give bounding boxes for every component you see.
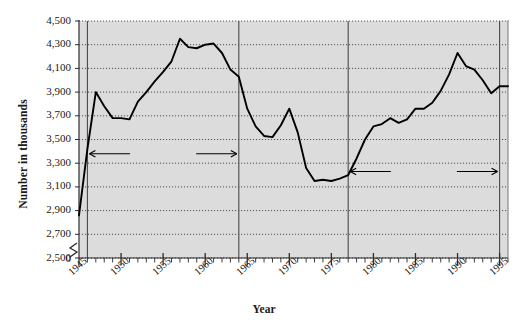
- birth-rate-line-chart: Number in thousands Year 4,5004,3004,100…: [0, 0, 528, 326]
- plot-canvas: [0, 0, 528, 326]
